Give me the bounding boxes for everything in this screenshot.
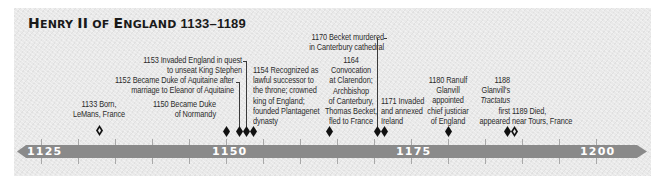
label-line: in Canterbury cathedral bbox=[309, 42, 384, 52]
label-line: Ireland bbox=[381, 116, 403, 126]
label-line: at Clarendon; bbox=[329, 75, 372, 85]
label-line: 1154 Recognized as bbox=[253, 65, 318, 75]
connector-1153-v bbox=[246, 61, 247, 127]
event-label-1153: 1153 Invaded England in quest to unseat … bbox=[137, 55, 242, 75]
connector-1170-h bbox=[384, 38, 387, 39]
label-line: Convocation bbox=[331, 65, 371, 75]
label-line: 1152 Became Duke of Aquitaine after bbox=[115, 75, 234, 85]
axis-label-1200: 1200 bbox=[580, 145, 615, 158]
event-label-1164: 1164 Convocation at Clarendon; Archbisho… bbox=[324, 55, 377, 126]
label-line: 1189 Died, bbox=[512, 106, 546, 116]
label-line: of Normandy bbox=[175, 109, 216, 119]
label-line: first bbox=[499, 106, 510, 116]
label-line: the throne; crowned bbox=[253, 85, 317, 95]
label-line: 1171 Invaded bbox=[381, 96, 424, 106]
label-line: to unseat King Stephen bbox=[167, 65, 242, 75]
title-roman-numeral: II bbox=[77, 15, 88, 31]
label-line: lawful successor to bbox=[253, 75, 314, 85]
title-word-england: NGLAND bbox=[123, 18, 176, 31]
connector-1152-v bbox=[239, 82, 240, 127]
label-line: Glanvill bbox=[436, 85, 460, 95]
label-line: 1133 Born, bbox=[82, 99, 117, 109]
axis-label-1150: 1150 bbox=[212, 145, 247, 158]
label-line: dynasty bbox=[253, 116, 278, 126]
label-line: LeMans, France bbox=[73, 109, 125, 119]
event-label-1133: 1133 Born, LeMans, France bbox=[72, 99, 125, 119]
label-line: chief justiciar bbox=[427, 106, 468, 116]
axis-label-1175: 1175 bbox=[396, 145, 431, 158]
title-years: 1133–1189 bbox=[181, 16, 246, 31]
label-line: king of England; bbox=[253, 96, 305, 106]
title-letter: H bbox=[28, 15, 40, 31]
axis-label-1125: 1125 bbox=[27, 145, 62, 158]
label-line: appeared bbox=[479, 116, 510, 126]
label-line: and annexed bbox=[381, 106, 423, 116]
event-label-1180: 1180 Ranulf Glanvill appointed chief jus… bbox=[424, 75, 472, 126]
timeline-bar bbox=[17, 145, 647, 158]
title-word-henry: ENRY bbox=[40, 18, 77, 31]
label-line-italic: Tractatus bbox=[481, 95, 510, 105]
event-label-1152: 1152 Became Duke of Aquitaine after marr… bbox=[112, 75, 234, 95]
connector-1170-v bbox=[377, 38, 378, 127]
label-line: marriage to Eleanor of Aquitaine bbox=[131, 85, 234, 95]
label-line: 1180 Ranulf bbox=[429, 75, 467, 85]
event-label-1154: 1154 Recognized as lawful successor to t… bbox=[253, 65, 322, 126]
event-label-1150: 1150 Became Duke of Normandy bbox=[147, 99, 216, 119]
timeline-title: HENRY II OF ENGLAND1133–1189 bbox=[28, 15, 246, 31]
label-line: Thomas Becket, bbox=[325, 106, 377, 116]
label-line: founded Plantagenet bbox=[253, 106, 320, 116]
label-line: Archbishop bbox=[333, 86, 369, 96]
label-line: Glanvill's bbox=[482, 85, 510, 95]
title-word-of: OF bbox=[92, 18, 113, 31]
label-line: 1164 bbox=[343, 55, 359, 65]
event-label-1188: 1188 Glanvill's Tractatus first appeared bbox=[476, 75, 510, 126]
label-line: of Canterbury, bbox=[328, 96, 373, 106]
label-line: near Tours, France bbox=[512, 116, 572, 126]
event-label-1170: 1170 Becket murdered in Canterbury cathe… bbox=[303, 32, 384, 52]
label-line: appointed bbox=[432, 95, 464, 105]
event-label-1189: 1189 Died, near Tours, France bbox=[512, 106, 581, 126]
label-line: 1170 Becket murdered bbox=[311, 32, 384, 42]
label-line: 1150 Became Duke bbox=[153, 99, 216, 109]
label-line: 1188 bbox=[494, 75, 510, 85]
title-letter: E bbox=[113, 15, 123, 31]
label-line: of England bbox=[431, 116, 465, 126]
label-line: fled to France bbox=[329, 116, 373, 126]
label-line: 1153 Invaded England in quest bbox=[143, 55, 242, 65]
